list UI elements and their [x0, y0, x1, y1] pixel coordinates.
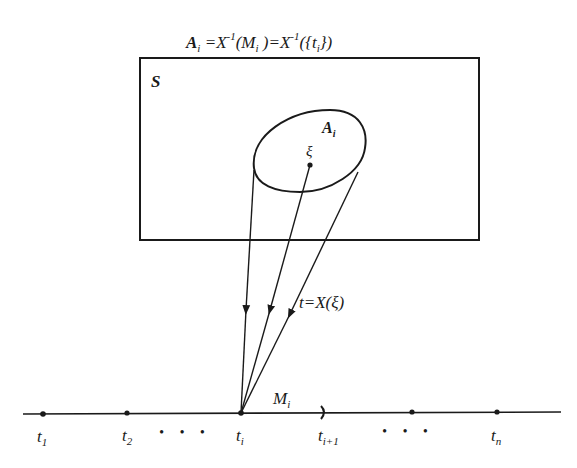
axis-label-t1: t1 [37, 427, 47, 448]
axis-label-ti1: ti+1 [318, 426, 339, 447]
axis-label-tn: tn [491, 426, 502, 447]
sample-space-label: S [151, 72, 160, 91]
ellipsis-left: • • • [159, 425, 211, 440]
axis-label-ti: ti [236, 426, 244, 447]
dot-t2 [124, 410, 129, 415]
ellipsis-right: • • • [382, 424, 434, 439]
interval-label: Mi [272, 389, 290, 410]
mapping-lines [241, 165, 358, 413]
mapping-label: t=X(ξ) [299, 293, 345, 312]
axis-label-t2: t2 [122, 426, 133, 447]
point-label: ξ [306, 143, 313, 159]
dot-t1 [40, 411, 46, 417]
real-axis [23, 412, 561, 414]
title-formula: Ai =X-1(Mi )=X-1({ti}) [185, 30, 333, 54]
dot-tn [494, 409, 499, 414]
dot-unlabeled [409, 409, 414, 414]
random-variable-diagram: Ai =X-1(Mi )=X-1({ti}) S Ai ξ t=X(ξ) Mi … [0, 0, 577, 468]
dot-ti [238, 410, 244, 416]
event-label: Ai [321, 119, 336, 139]
